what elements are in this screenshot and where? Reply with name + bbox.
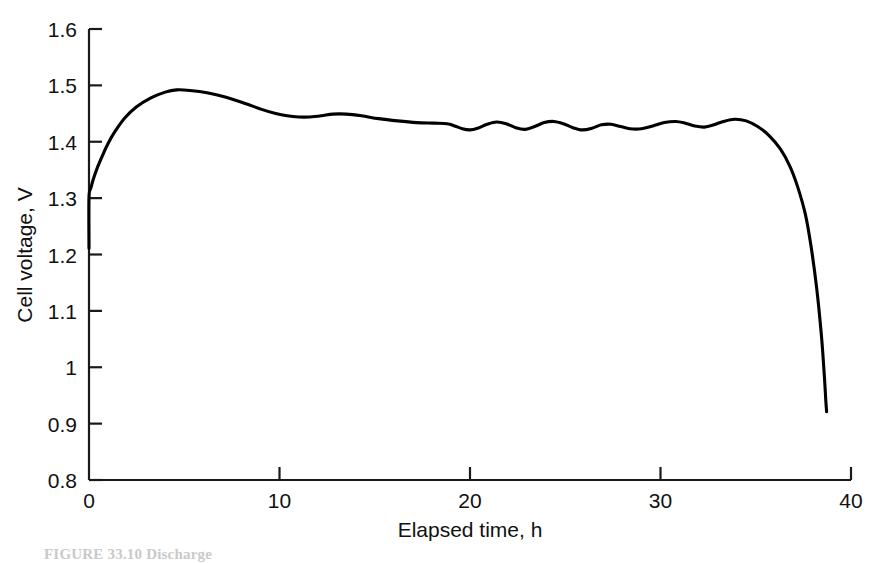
x-tick-label: 40 bbox=[839, 489, 862, 512]
x-tick-label: 10 bbox=[268, 489, 291, 512]
y-axis-tick-labels: 0.80.911.11.21.31.41.51.6 bbox=[48, 18, 78, 492]
y-tick-label: 1.5 bbox=[48, 74, 77, 97]
x-tick-label: 20 bbox=[458, 489, 481, 512]
y-tick-label: 1.6 bbox=[48, 18, 77, 41]
y-tick-label: 1.3 bbox=[48, 187, 77, 210]
y-tick-label: 0.9 bbox=[48, 413, 77, 436]
figure-caption: FIGURE 33.10 Discharge bbox=[44, 546, 212, 563]
y-tick-label: 1.4 bbox=[48, 131, 78, 154]
y-tick-label: 1.2 bbox=[48, 244, 77, 267]
x-tick-label: 30 bbox=[649, 489, 672, 512]
y-axis-title: Cell voltage, V bbox=[13, 187, 36, 322]
x-tick-label: 0 bbox=[83, 489, 95, 512]
y-tick-label: 1.1 bbox=[48, 300, 77, 323]
y-tick-label: 0.8 bbox=[48, 469, 77, 492]
y-tick-label: 1 bbox=[65, 356, 77, 379]
x-axis-title: Elapsed time, h bbox=[398, 518, 543, 541]
